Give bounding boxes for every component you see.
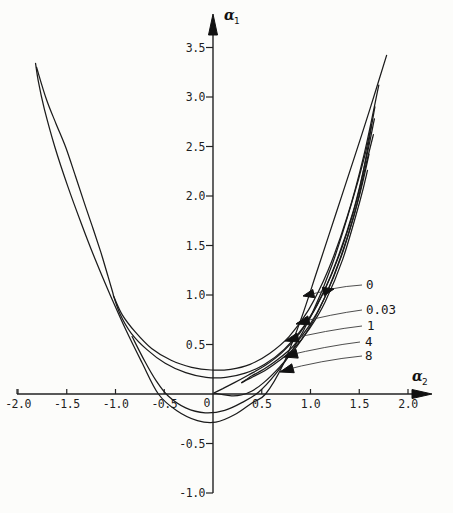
x-tick-label-1.0: 1.0 [301, 397, 321, 411]
x-tick-label--1.5: -1.5 [54, 397, 80, 411]
origin-tick-label: 0 [204, 396, 211, 410]
x-tick-label-2.0: 2.0 [398, 397, 418, 411]
curve-label-8: 8 [365, 348, 373, 363]
y-tick-label--0.5: -0.5 [179, 437, 205, 451]
y-tick-label-1.5: 1.5 [186, 239, 205, 253]
x-axis-label-subscript: 2 [422, 377, 428, 387]
curve-label-4: 4 [365, 334, 373, 349]
curve-003-lower [114, 107, 375, 378]
y-tick-label-1.0: 1.0 [186, 288, 206, 302]
curve-003-upper [114, 85, 379, 370]
curve-4-lower [242, 170, 368, 382]
y-tick-label-3.0: 3.0 [186, 90, 206, 104]
curve-label-0.03: 0.03 [366, 302, 396, 317]
curve-label-1: 1 [367, 318, 375, 333]
y-tick-label-2.0: 2.0 [186, 189, 206, 203]
annotation-leader-0 [331, 285, 362, 289]
curve-label-0: 0 [366, 277, 374, 292]
curve-8 [132, 125, 371, 413]
arrowhead-left-icon-0 [303, 289, 315, 297]
curve-4-upper [242, 154, 369, 382]
x-tick-label--2.0: -2.0 [5, 397, 31, 411]
curve-0-outer [36, 55, 387, 422]
x-tick-label--1.0: -1.0 [103, 397, 129, 411]
stability-chart-figure: α1α2-2.0-1.5-1.0-0.50.51.01.52.03.53.02.… [0, 0, 453, 513]
x-tick-label-1.5: 1.5 [350, 397, 369, 411]
y-tick-label-3.5: 3.5 [186, 41, 205, 55]
arrowhead-icon-1 [285, 333, 299, 342]
x-tick-label-0.5: 0.5 [252, 397, 271, 411]
chart-canvas: α1α2-2.0-1.5-1.0-0.50.51.01.52.03.53.02.… [0, 0, 453, 513]
y-axis-label-subscript: 1 [234, 16, 240, 26]
y-tick-label-2.5: 2.5 [186, 140, 205, 154]
arrowhead-icon-0.03 [296, 316, 310, 325]
y-tick-label-0.5: 0.5 [186, 338, 205, 352]
y-tick-label--1.0: -1.0 [179, 486, 205, 500]
curve-0-return [37, 67, 114, 296]
y-axis-arrow-icon [209, 14, 218, 35]
